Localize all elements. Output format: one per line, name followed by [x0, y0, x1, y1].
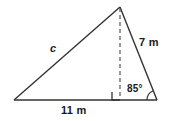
- triangle-diagram-svg: [0, 0, 172, 121]
- side-label-c: c: [50, 43, 56, 54]
- angle-arc-icon: [147, 91, 153, 100]
- side-label-base: 11 m: [61, 105, 87, 116]
- triangle-hypotenuse-edge: [14, 7, 120, 100]
- right-angle-marker-icon: [112, 92, 120, 100]
- triangle-diagram: c 7 m 85° 11 m: [0, 0, 172, 121]
- angle-label-85: 85°: [127, 84, 143, 94]
- side-label-right: 7 m: [139, 37, 159, 48]
